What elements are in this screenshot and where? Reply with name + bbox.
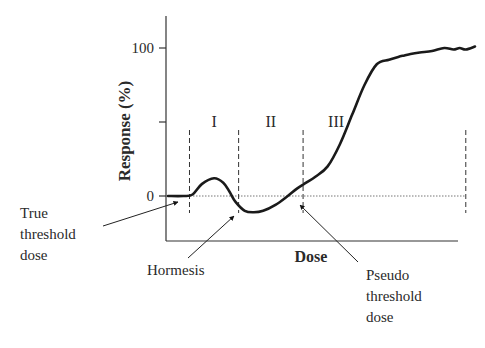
annotation-line: Pseudo bbox=[366, 267, 409, 283]
annotation-line: dose bbox=[366, 309, 394, 325]
annotation-line: Hormesis bbox=[147, 262, 205, 278]
annotation-line: True bbox=[20, 205, 48, 221]
annotations: TruethresholddoseHormesisPseudothreshold… bbox=[20, 202, 422, 325]
region-label: I bbox=[211, 113, 216, 130]
annotation-line: dose bbox=[20, 247, 48, 263]
axes bbox=[166, 16, 458, 241]
hormesis-dose-response-chart: 0100 IIIIII Response (%) Dose Truethresh… bbox=[0, 0, 485, 348]
annotation-arrow bbox=[103, 202, 178, 226]
y-axis-label: Response (%) bbox=[115, 81, 134, 182]
annotation-label: Truethresholddose bbox=[20, 205, 76, 263]
annotation-line: threshold bbox=[366, 288, 422, 304]
annotation-line: threshold bbox=[20, 226, 76, 242]
region-boundaries bbox=[189, 130, 465, 213]
region-label: II bbox=[266, 113, 277, 130]
region-labels: IIIIII bbox=[211, 113, 344, 130]
y-tick-label: 0 bbox=[147, 188, 155, 204]
x-axis-label: Dose bbox=[295, 248, 328, 265]
region-label: III bbox=[328, 113, 344, 130]
annotation-label: Pseudothresholddose bbox=[366, 267, 422, 325]
annotation-label: Hormesis bbox=[147, 262, 205, 278]
y-ticks: 0100 bbox=[132, 40, 167, 204]
y-tick-label: 100 bbox=[132, 40, 155, 56]
annotation-arrow bbox=[188, 216, 234, 258]
